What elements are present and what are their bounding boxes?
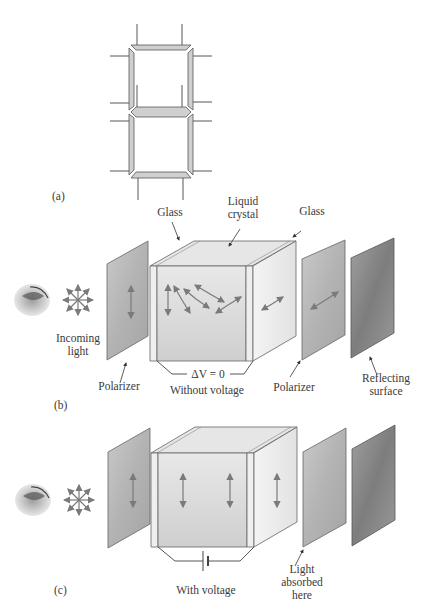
segment-top-left [129, 48, 134, 110]
back-glass [247, 453, 254, 547]
unpolarized-light-icon [64, 485, 94, 515]
reflecting-surface [351, 238, 394, 358]
label-incoming-light-2: light [67, 345, 89, 358]
segment-bottom-right [188, 114, 193, 175]
segment-bottom [131, 172, 191, 178]
label-reflecting-2: surface [369, 385, 402, 397]
segment-top [131, 45, 191, 50]
label-incoming-light-1: Incoming [56, 332, 100, 345]
front-glass [151, 453, 158, 547]
label-glass-front: Glass [157, 206, 183, 218]
label-polarizer-back: Polarizer [273, 381, 315, 393]
panel-b-tag: (b) [54, 399, 68, 412]
back-polarizer [302, 240, 345, 360]
label-liquid-crystal-1: Liquid [228, 195, 259, 208]
label-with-voltage: With voltage [176, 584, 235, 597]
unpolarized-light-icon [63, 285, 93, 315]
label-without-voltage: Without voltage [170, 384, 244, 397]
lcd-diagram: (a) [0, 0, 433, 607]
reflecting-surface [352, 425, 395, 546]
label-glass-back: Glass [299, 205, 325, 217]
front-polarizer [107, 241, 148, 360]
panel-c: With voltage Light absorbed here (c) [15, 425, 395, 601]
panel-b: ΔV = 0 Glass Liquid crystal Glass Incomi… [14, 195, 410, 412]
label-liquid-crystal-2: crystal [228, 208, 259, 221]
liquid-crystal-face [158, 453, 247, 547]
delta-v-label: ΔV = 0 [191, 368, 225, 380]
back-polarizer [303, 428, 346, 547]
label-absorbed-2: absorbed [281, 576, 323, 588]
segment-top-right [188, 48, 193, 110]
seven-segment-display [110, 24, 212, 200]
battery-icon [158, 547, 254, 571]
liquid-crystal-face [157, 266, 246, 361]
label-reflecting-1: Reflecting [362, 372, 410, 385]
label-polarizer-front: Polarizer [98, 380, 140, 392]
label-absorbed-1: Light [290, 563, 316, 576]
eye-icon [14, 284, 50, 316]
segment-bottom-left [129, 114, 134, 175]
front-glass [150, 266, 157, 361]
label-absorbed-3: here [292, 589, 312, 601]
panel-a-tag: (a) [52, 190, 65, 203]
eye-icon [15, 484, 51, 516]
back-glass [246, 266, 253, 361]
front-polarizer [108, 428, 150, 548]
segment-middle [131, 107, 191, 117]
panel-c-tag: (c) [54, 584, 67, 597]
liquid-crystal-cell [151, 427, 297, 547]
